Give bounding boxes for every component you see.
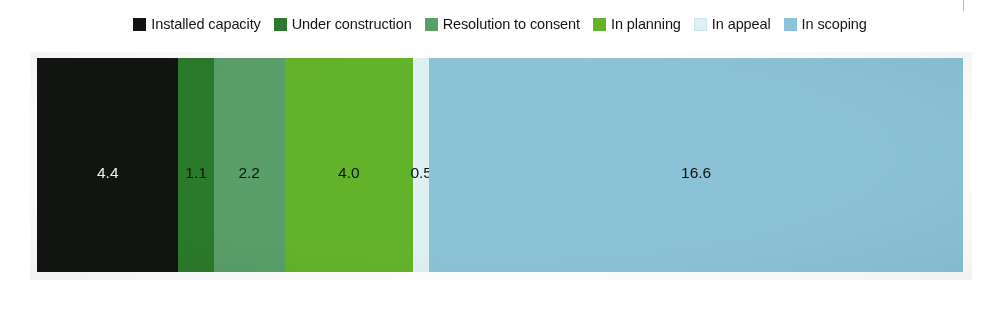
legend-swatch-in-appeal [694,18,707,31]
legend-item-4[interactable]: In appeal [694,17,771,32]
stacked-bar: 4.41.12.24.00.516.6 [37,58,963,272]
legend-item-0[interactable]: Installed capacity [133,17,260,32]
legend-swatch-installed-capacity [133,18,146,31]
legend-item-1[interactable]: Under construction [274,17,412,32]
bar-segment-1[interactable]: 1.1 [178,58,213,272]
legend-item-label: Installed capacity [151,17,260,32]
bar-segment-3[interactable]: 4.0 [285,58,414,272]
legend-swatch-resolution-to-consent [425,18,438,31]
bar-segment-2[interactable]: 2.2 [214,58,285,272]
bar-segment-value-label: 16.6 [681,165,711,181]
bar-segment-value-label: 4.4 [97,165,119,181]
bar-segment-value-label: 4.0 [338,165,360,181]
stacked-bar-chart-plot-area: 4.41.12.24.00.516.6 [37,58,963,272]
legend-item-label: Resolution to consent [443,17,580,32]
legend-item-3[interactable]: In planning [593,17,681,32]
legend-item-5[interactable]: In scoping [784,17,867,32]
legend-swatch-in-scoping [784,18,797,31]
bar-segment-4[interactable]: 0.5 [413,58,429,272]
legend-item-2[interactable]: Resolution to consent [425,17,580,32]
crop-tick-mark [963,0,964,11]
legend-swatch-in-planning [593,18,606,31]
legend-item-label: In planning [611,17,681,32]
bar-segment-value-label: 2.2 [238,165,260,181]
legend-item-label: In scoping [802,17,867,32]
legend-item-label: Under construction [292,17,412,32]
legend-item-label: In appeal [712,17,771,32]
chart-figure: Installed capacityUnder constructionReso… [0,0,1000,320]
bar-segment-5[interactable]: 16.6 [429,58,963,272]
legend-swatch-under-construction [274,18,287,31]
bar-segment-value-label: 1.1 [185,165,207,181]
bar-segment-0[interactable]: 4.4 [37,58,178,272]
chart-legend: Installed capacityUnder constructionReso… [0,13,1000,35]
